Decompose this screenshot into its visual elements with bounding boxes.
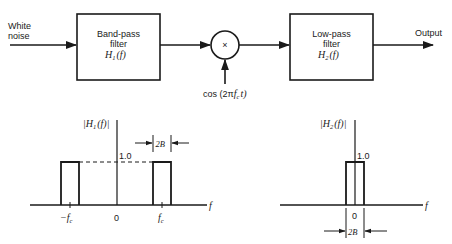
bandpass-transfer-function: H1(f) xyxy=(104,49,127,61)
mixer-symbol: × xyxy=(222,40,227,50)
oscillator-label: cos (2πfct) xyxy=(203,88,247,100)
h1-bandwidth-label: 2B xyxy=(156,139,165,149)
h1-tick-neg-fc: −fc xyxy=(60,212,73,224)
svg-text:noise: noise xyxy=(8,31,30,41)
input-label: White noise xyxy=(8,21,31,41)
h1-ylabel: |H1(f)| xyxy=(83,118,109,130)
svg-text:White: White xyxy=(8,21,31,31)
bandpass-label-2: filter xyxy=(110,39,127,49)
h1-positive-passband xyxy=(153,162,171,205)
h2-ylabel: |H2(f)| xyxy=(320,118,346,130)
h2-x-axis-label: f xyxy=(425,200,429,211)
h1-tick-fc: fc xyxy=(158,212,164,224)
lowpass-transfer-function: H2(f) xyxy=(317,49,340,61)
lowpass-label-1: Low-pass xyxy=(312,29,351,39)
lowpass-label-2: filter xyxy=(323,39,340,49)
receiver-diagram: White noise Band-pass filter H1(f) × cos… xyxy=(0,0,452,244)
h1-x-axis-label: f xyxy=(209,200,213,211)
h1-magnitude-plot: |H1(f)| 1.0 −fc 0 fc f 2B xyxy=(30,118,213,224)
h1-tick-zero: 0 xyxy=(114,213,119,223)
h1-negative-passband xyxy=(61,162,79,205)
h2-bandwidth-label: 2B xyxy=(348,227,357,237)
output-label: Output xyxy=(415,28,443,38)
bandpass-label-1: Band-pass xyxy=(97,29,141,39)
h1-level-label: 1.0 xyxy=(119,151,132,161)
h2-tick-zero: 0 xyxy=(352,211,357,221)
h2-magnitude-plot: |H2(f)| 1.0 0 f 2B xyxy=(280,118,429,238)
h2-level-label: 1.0 xyxy=(357,151,370,161)
